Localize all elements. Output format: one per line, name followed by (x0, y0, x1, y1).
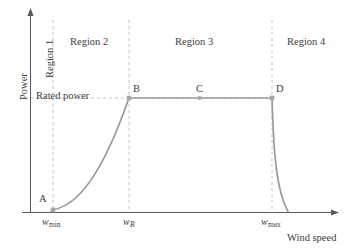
curve-region2-rise (53, 98, 129, 210)
x-tick-wb-base: w (123, 216, 130, 227)
x-tick-wb: wB (123, 217, 134, 227)
point-d-label: D (276, 84, 284, 95)
rated-power-label: Rated power (36, 91, 89, 102)
y-axis-label: Power (19, 73, 30, 100)
wind-power-curve-figure: Power Region 1 Region 2 Region 3 Region … (0, 0, 351, 250)
point-c-label: C (196, 84, 203, 95)
region-4-label: Region 4 (287, 37, 325, 48)
x-tick-wmin-sub: min (49, 220, 61, 229)
x-tick-wmin-base: w (42, 216, 49, 227)
marker-point-c (198, 96, 202, 100)
y-axis-arrowhead (27, 8, 33, 16)
marker-point-b (127, 96, 132, 101)
x-axis-arrowhead (331, 209, 339, 215)
point-b-label: B (133, 84, 140, 95)
x-tick-wmin: wmin (42, 217, 60, 227)
curve-region4-dropoff (272, 98, 288, 212)
x-tick-wmax-sub: max (268, 220, 281, 229)
x-tick-wmax: wmax (261, 217, 280, 227)
marker-point-a (51, 208, 56, 213)
x-axis-label: Wind speed (287, 233, 336, 244)
x-tick-wb-sub: B (130, 220, 135, 229)
point-a-label: A (39, 194, 47, 205)
region-1-label: Region 1 (45, 40, 56, 78)
x-tick-wmax-base: w (261, 216, 268, 227)
region-3-label: Region 3 (175, 37, 213, 48)
marker-point-d (270, 96, 275, 101)
region-2-label: Region 2 (70, 37, 108, 48)
